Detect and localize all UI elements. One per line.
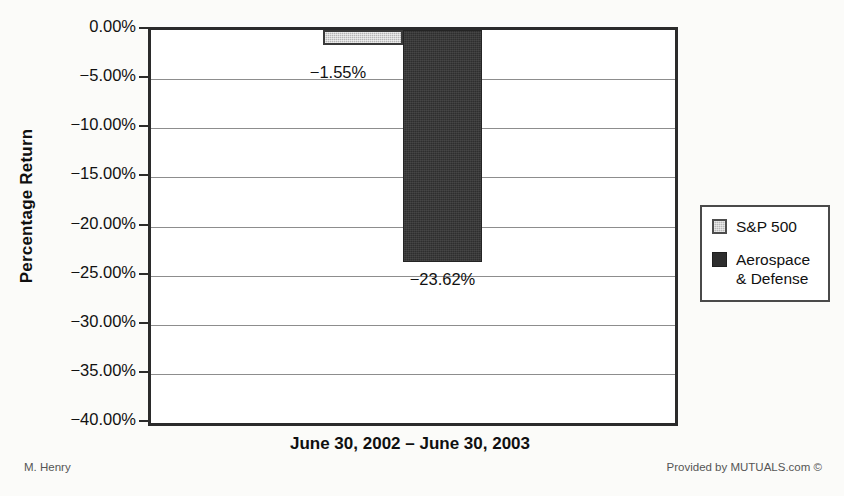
y-axis-tick-label: −10.00% [26,115,136,134]
legend-label-aerospace-defense: Aerospace & Defense [736,250,810,288]
y-axis-tick-label: −40.00% [26,410,136,429]
y-axis-tick-label: −30.00% [26,312,136,331]
footer-author: M. Henry [24,461,71,473]
data-label-aerospace-defense: −23.62% [363,270,523,289]
bar-aerospace-defense[interactable] [403,30,482,262]
bar-sp500[interactable] [323,30,403,45]
x-axis-title: June 30, 2002 – June 30, 2003 [148,434,672,454]
legend-swatch-sp500-icon [712,219,727,234]
gridline [151,374,675,375]
y-axis-tick-mark [139,273,148,275]
footer-provider: Provided by MUTUALS.com © [667,461,822,473]
plot-area: −1.55% −23.62% [148,27,678,426]
legend-label-aerospace-line1: Aerospace [736,251,810,268]
chart-figure: Percentage Return 0.00%−5.00%−10.00%−15.… [0,0,844,496]
y-axis-tick-label: −20.00% [26,214,136,233]
y-axis-tick-mark [139,224,148,226]
legend-label-sp500: S&P 500 [736,217,797,236]
legend-label-aerospace-line2: & Defense [736,270,808,287]
y-axis-tick-mark [139,322,148,324]
y-axis-tick-label: −25.00% [26,263,136,282]
y-axis-tick-label: 0.00% [26,17,136,36]
legend-item-aerospace-defense[interactable]: Aerospace & Defense [712,250,820,288]
y-axis-tick-mark [139,125,148,127]
legend-item-sp500[interactable]: S&P 500 [712,217,820,236]
y-axis-tick-mark [139,27,148,29]
chart-legend: S&P 500 Aerospace & Defense [700,205,830,302]
y-axis-tick-mark [139,371,148,373]
gridline [151,325,675,326]
y-axis-tick-label: −5.00% [26,66,136,85]
y-axis-tick-mark [139,76,148,78]
data-label-sp500: −1.55% [273,63,403,82]
legend-swatch-aerospace-icon [712,252,727,267]
y-axis-tick-mark [139,174,148,176]
y-axis-tick-mark [139,420,148,422]
y-axis-tick-label: −35.00% [26,361,136,380]
y-axis-tick-label: −15.00% [26,164,136,183]
